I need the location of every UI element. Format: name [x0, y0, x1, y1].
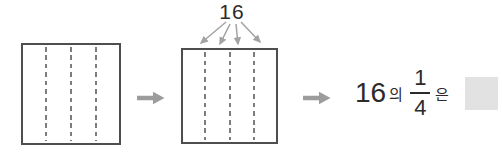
partitioned-square: [181, 48, 278, 144]
expression-of-particle: 의: [389, 83, 403, 104]
right-arrow-icon: [137, 91, 165, 105]
fan-arrows-icon: [192, 18, 267, 50]
dashed-divider: [229, 52, 231, 140]
answer-box: [465, 77, 498, 110]
expression-number: 16: [355, 77, 386, 109]
expression-topic-particle: 은: [435, 83, 449, 104]
dashed-divider: [70, 47, 72, 141]
fraction-one-fourth: 1 4: [410, 67, 430, 119]
whole-square: [21, 43, 121, 145]
dashed-divider: [95, 47, 97, 141]
dashed-divider: [253, 52, 255, 140]
fraction-denominator: 4: [410, 94, 430, 119]
dashed-divider: [45, 47, 47, 141]
right-arrow-icon: [303, 91, 331, 105]
fraction-numerator: 1: [410, 67, 430, 94]
dashed-divider: [204, 52, 206, 140]
fraction-expression: 16 의 1 4 은: [355, 61, 498, 125]
math-fraction-diagram: 16 16 의 1 4 은: [0, 0, 502, 157]
